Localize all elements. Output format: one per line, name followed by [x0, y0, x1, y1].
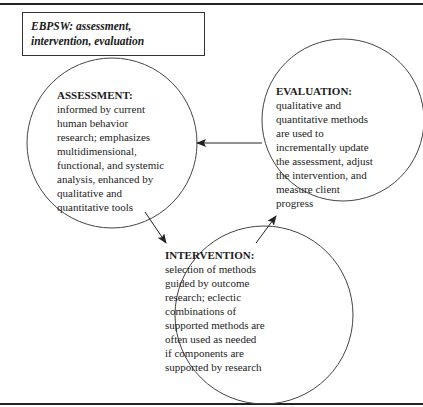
- intervention-text: INTERVENTION: selection of methods guide…: [165, 248, 265, 374]
- assessment-line: functional, and systemic: [57, 158, 164, 172]
- evaluation-line: the assessment, adjust: [276, 154, 373, 168]
- title-line-1: EBPSW: assessment,: [31, 19, 196, 34]
- evaluation-heading: EVALUATION:: [276, 84, 373, 98]
- assessment-line: quantitative tools: [57, 200, 164, 214]
- arrow-assessment-to-intervention: [145, 212, 166, 243]
- title-box: EBPSW: assessment, intervention, evaluat…: [22, 12, 205, 56]
- intervention-heading: INTERVENTION:: [165, 248, 265, 262]
- assessment-line: informed by current: [57, 102, 164, 116]
- assessment-line: research; emphasizes: [57, 130, 164, 144]
- evaluation-line: progress: [276, 196, 373, 210]
- evaluation-line: are used to: [276, 126, 373, 140]
- intervention-line: supported methods are: [165, 318, 265, 332]
- intervention-line: supported by research: [165, 360, 265, 374]
- assessment-line: analysis, enhanced by: [57, 172, 164, 186]
- evaluation-line: measure client: [276, 182, 373, 196]
- assessment-line: qualitative and: [57, 186, 164, 200]
- intervention-line: selection of methods: [165, 262, 265, 276]
- evaluation-line: qualitative and: [276, 98, 373, 112]
- evaluation-line: incrementally update: [276, 140, 373, 154]
- evaluation-text: EVALUATION: qualitative and quantitative…: [276, 84, 373, 210]
- arrow-intervention-to-evaluation: [256, 216, 276, 243]
- intervention-line: combinations of: [165, 304, 265, 318]
- intervention-line: research; eclectic: [165, 290, 265, 304]
- evaluation-line: quantitative methods: [276, 112, 373, 126]
- assessment-line: multidimensional,: [57, 144, 164, 158]
- assessment-heading: ASSESSMENT:: [57, 88, 164, 102]
- assessment-text: ASSESSMENT: informed by current human be…: [57, 88, 164, 214]
- intervention-line: often used as needed: [165, 332, 265, 346]
- evaluation-line: the intervention, and: [276, 168, 373, 182]
- title-line-2: intervention, evaluation: [31, 34, 196, 49]
- intervention-line: if components are: [165, 346, 265, 360]
- assessment-line: human behavior: [57, 116, 164, 130]
- intervention-line: guided by outcome: [165, 276, 265, 290]
